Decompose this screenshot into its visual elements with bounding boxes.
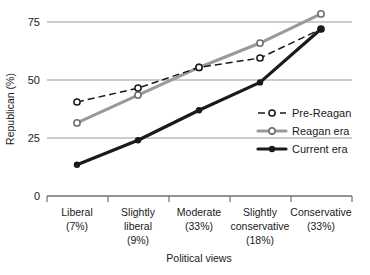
series-pre-reagan-point xyxy=(135,85,141,91)
chart-figure: 75 50 25 0 Republican (%) xyxy=(0,0,370,275)
x-axis xyxy=(47,196,352,202)
legend-item-reagan-era[interactable]: Reagan era xyxy=(258,125,350,137)
legend-marker-current-era xyxy=(269,146,275,152)
category-label-liberal-line1: Liberal xyxy=(61,206,93,218)
gridlines xyxy=(47,22,352,138)
y-tick-label-25: 25 xyxy=(28,132,40,144)
series-current-era-point xyxy=(318,26,324,32)
category-label-slightly-conservative-line2: conservative xyxy=(231,220,290,232)
category-label-conservative-line2: (33%) xyxy=(307,220,335,232)
series-current-era-point xyxy=(257,79,263,85)
y-tick-label-0: 0 xyxy=(34,190,40,202)
category-label-moderate-line1: Moderate xyxy=(177,206,222,218)
y-tick-label-50: 50 xyxy=(28,74,40,86)
series-reagan-era-point xyxy=(318,11,324,17)
category-label-slightly-conservative-line3: (18%) xyxy=(246,234,274,246)
legend-label-reagan-era: Reagan era xyxy=(292,125,350,137)
legend-item-current-era[interactable]: Current era xyxy=(258,143,349,155)
y-tick-label-75: 75 xyxy=(28,16,40,28)
category-label-slightly-conservative-line1: Slightly xyxy=(243,206,278,218)
category-label-slightly-liberal-line3: (9%) xyxy=(127,234,149,246)
series-reagan-era-point xyxy=(257,40,263,46)
legend-marker-reagan-era xyxy=(269,128,275,134)
category-label-conservative-line1: Conservative xyxy=(290,206,351,218)
series-reagan-era-point xyxy=(135,92,141,98)
category-label-slightly-liberal-line2: liberal xyxy=(124,220,152,232)
chart-legend: Pre-Reagan Reagan era Current era xyxy=(258,107,351,155)
category-label-moderate-line2: (33%) xyxy=(185,220,213,232)
series-current-era-point xyxy=(196,107,202,113)
category-label-slightly-liberal-line1: Slightly xyxy=(121,206,156,218)
category-label-liberal-line2: (7%) xyxy=(66,220,88,232)
series-pre-reagan-point xyxy=(257,55,263,61)
chart-canvas: 75 50 25 0 Republican (%) xyxy=(0,0,370,275)
x-axis-title: Political views xyxy=(166,252,231,264)
series-reagan-era-point xyxy=(74,120,80,126)
series-current-era xyxy=(74,26,324,168)
legend-label-pre-reagan: Pre-Reagan xyxy=(292,107,351,119)
series-pre-reagan-point xyxy=(74,99,80,105)
y-axis-title: Republican (%) xyxy=(4,73,16,145)
legend-label-current-era: Current era xyxy=(292,143,349,155)
series-current-era-line xyxy=(77,29,321,165)
x-category-labels: Liberal (7%) Slightly liberal (9%) Moder… xyxy=(61,206,352,246)
series-pre-reagan-point xyxy=(196,64,202,70)
series-current-era-point xyxy=(135,137,141,143)
series-current-era-point xyxy=(74,162,80,168)
legend-marker-pre-reagan xyxy=(269,110,275,116)
legend-item-pre-reagan[interactable]: Pre-Reagan xyxy=(258,107,351,119)
series-pre-reagan xyxy=(74,26,324,105)
